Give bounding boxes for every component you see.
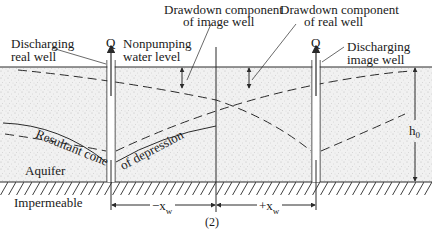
h0-subscript: 0 (416, 130, 421, 140)
label-minus-xw: −xw (152, 199, 172, 218)
plus-xw-symbol: +x (259, 198, 273, 213)
minus-xw-symbol: −x (152, 198, 166, 213)
label-discharging-image-well-line2: image well (347, 53, 404, 66)
label-drawdown-image-line2: of image well (183, 15, 254, 28)
plus-xw-subscript: w (273, 206, 280, 216)
label-q-image-well: Q (311, 36, 320, 49)
label-discharging-real-well-line2: real well (11, 50, 56, 63)
label-q-real-well: Q (106, 36, 115, 49)
label-aquifer: Aquifer (25, 164, 65, 177)
label-nonpumping-line2: water level (123, 50, 180, 63)
label-h0: h0 (409, 124, 420, 142)
leader-discharging-image-well (322, 47, 344, 62)
label-plus-xw: +xw (259, 199, 279, 218)
figure-caption: (2) (205, 216, 219, 229)
minus-xw-subscript: w (166, 206, 173, 216)
label-impermeable: Impermeable (14, 196, 83, 209)
label-drawdown-real-line2: of real well (304, 15, 363, 28)
